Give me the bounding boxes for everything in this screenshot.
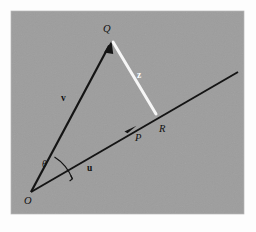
vector-diagram: O Q P R v u z θ [0, 0, 256, 232]
point-label-R: R [158, 123, 166, 134]
point-label-Q: Q [103, 23, 111, 34]
point-label-O: O [24, 195, 32, 206]
figure-root: O Q P R v u z θ [0, 0, 256, 232]
angle-label-theta: θ [42, 159, 47, 169]
vector-label-v: v [61, 93, 66, 103]
point-label-P: P [134, 132, 142, 143]
vector-label-u: u [87, 163, 93, 173]
